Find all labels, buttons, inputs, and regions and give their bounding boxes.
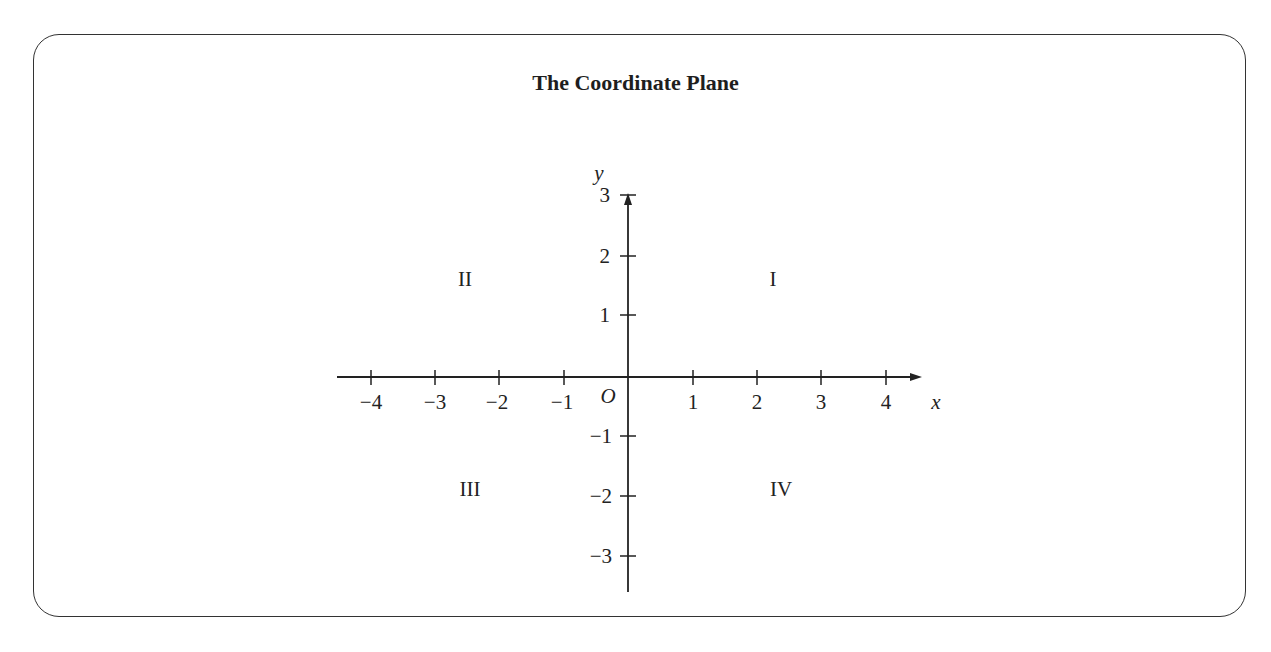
y-axis-label: y xyxy=(592,161,604,185)
x-tick-label: 3 xyxy=(816,390,827,414)
x-axis-label: x xyxy=(930,390,941,414)
y-tick-label: 1 xyxy=(600,303,611,327)
x-tick-label: −4 xyxy=(360,390,383,414)
x-tick-label: −2 xyxy=(486,390,508,414)
x-axis-arrow-icon xyxy=(910,373,922,381)
origin-label: O xyxy=(600,384,615,408)
y-tick-label: −3 xyxy=(590,544,612,568)
x-tick-label: 1 xyxy=(688,390,699,414)
x-tick-label: −3 xyxy=(424,390,446,414)
x-tick-label: −1 xyxy=(551,390,573,414)
y-tick-label: −2 xyxy=(590,484,612,508)
coordinate-plane: −4 −3 −2 −1 1 2 3 4 3 2 1 −1 −2 −3 x y O… xyxy=(0,0,1271,652)
quadrant-label-ii: II xyxy=(458,267,472,291)
quadrant-label-i: I xyxy=(770,267,777,291)
y-tick-label: 3 xyxy=(600,183,611,207)
quadrant-label-iv: IV xyxy=(770,477,792,501)
x-tick-label: 4 xyxy=(881,390,892,414)
x-tick-label: 2 xyxy=(752,390,763,414)
y-tick-label: −1 xyxy=(590,424,612,448)
y-tick-label: 2 xyxy=(600,244,611,268)
quadrant-label-iii: III xyxy=(460,477,481,501)
